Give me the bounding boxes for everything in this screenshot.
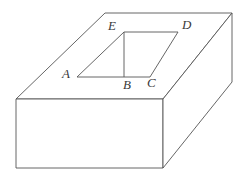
geometry-figure: E D A B C	[0, 0, 244, 178]
vertex-label-e: E	[108, 19, 116, 32]
vertex-label-c: C	[147, 76, 156, 89]
vertex-label-d: D	[182, 18, 191, 31]
vertex-label-a: A	[62, 67, 70, 80]
box-front-face	[16, 99, 163, 168]
vertex-label-b: B	[123, 78, 131, 91]
box-diagram-svg	[0, 0, 244, 178]
